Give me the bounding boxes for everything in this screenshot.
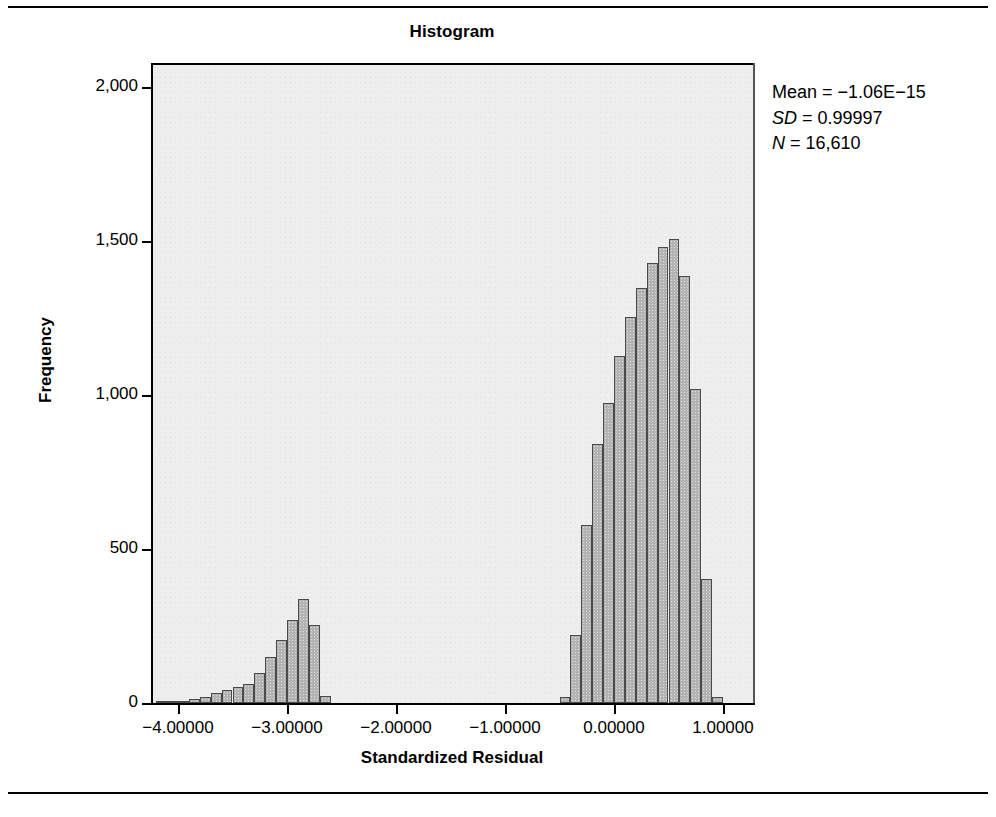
- y-axis-tick: [142, 549, 151, 551]
- stat-mean-equals: =: [822, 82, 833, 102]
- histogram-bar: [298, 599, 309, 703]
- histogram-bar: [669, 239, 680, 703]
- x-axis-tick: [178, 705, 180, 714]
- figure-bottom-rule: [8, 792, 988, 794]
- stat-mean-label: Mean: [772, 82, 817, 102]
- stat-mean: Mean = −1.06E−15: [772, 80, 926, 106]
- stat-mean-value: −1.06E−15: [838, 82, 926, 102]
- y-axis-tick: [142, 241, 151, 243]
- x-axis-tick: [505, 705, 507, 714]
- stat-n: N = 16,610: [772, 131, 926, 157]
- y-axis-tick-label: 1,000: [52, 384, 138, 404]
- y-axis-tick: [142, 87, 151, 89]
- histogram-bar: [690, 389, 701, 703]
- histogram-bar: [636, 288, 647, 703]
- histogram-bars: [151, 63, 753, 703]
- histogram-bar: [647, 263, 658, 703]
- histogram-bar: [614, 356, 625, 703]
- histogram-bar: [581, 525, 592, 703]
- histogram-bar: [222, 690, 233, 703]
- y-axis-tick-label: 2,000: [52, 76, 138, 96]
- y-axis-tick-label: 1,500: [52, 230, 138, 250]
- x-axis-tick: [287, 705, 289, 714]
- histogram-bar: [211, 693, 222, 703]
- histogram-bar: [233, 687, 244, 703]
- histogram-bar: [603, 403, 614, 703]
- histogram-bar: [658, 247, 669, 703]
- stat-n-value: 16,610: [806, 133, 861, 153]
- stat-sd-value: 0.99997: [818, 108, 883, 128]
- x-axis-line: [151, 703, 755, 705]
- plot-right-edge: [753, 63, 755, 704]
- histogram-bar: [265, 657, 276, 703]
- histogram-bar: [701, 579, 712, 703]
- y-axis-tick-label: 500: [52, 538, 138, 558]
- x-axis-tick: [723, 705, 725, 714]
- histogram-bar: [320, 696, 331, 703]
- y-axis-tick: [142, 395, 151, 397]
- x-axis-tick: [614, 705, 616, 714]
- y-axis-tick-label: 0: [52, 692, 138, 712]
- histogram-bar: [625, 317, 636, 703]
- histogram-bar: [276, 640, 287, 703]
- x-axis-tick-label: 1.00000: [653, 718, 793, 738]
- x-axis-tick: [396, 705, 398, 714]
- statistics-annotation: Mean = −1.06E−15 SD = 0.99997 N = 16,610: [772, 80, 926, 157]
- histogram-bar: [570, 635, 581, 703]
- figure-top-rule: [8, 6, 988, 8]
- histogram-bar: [309, 625, 320, 703]
- histogram-bar: [287, 620, 298, 703]
- x-axis-title: Standardized Residual: [151, 748, 753, 768]
- chart-title: Histogram: [151, 22, 753, 42]
- histogram-figure: Histogram 05001,0001,5002,000 −4.00000−3…: [0, 0, 996, 817]
- stat-n-equals: =: [790, 133, 801, 153]
- histogram-bar: [243, 684, 254, 703]
- y-axis-tick: [142, 703, 151, 705]
- stat-sd-label: SD: [772, 108, 797, 128]
- histogram-bar: [679, 276, 690, 703]
- stat-sd-equals: =: [802, 108, 813, 128]
- histogram-bar: [254, 673, 265, 703]
- histogram-bar: [592, 444, 603, 703]
- y-axis-title: Frequency: [36, 270, 56, 450]
- stat-sd: SD = 0.99997: [772, 106, 926, 132]
- stat-n-label: N: [772, 133, 785, 153]
